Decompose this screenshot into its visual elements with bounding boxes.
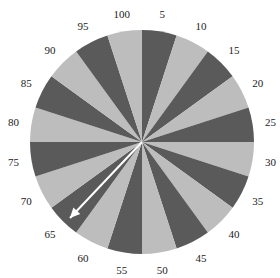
sector-label: 15 xyxy=(228,44,240,56)
sector-label: 100 xyxy=(113,8,130,20)
sector-label: 95 xyxy=(77,20,89,32)
sector-label: 70 xyxy=(21,195,33,207)
spinner-diagram: 5101520253035404550556065707580859095100 xyxy=(0,0,280,278)
sector-label: 55 xyxy=(116,264,128,276)
sector-label: 10 xyxy=(196,20,208,32)
sector-label: 35 xyxy=(252,195,264,207)
sector-label: 80 xyxy=(8,116,20,128)
sector-label: 90 xyxy=(45,44,57,56)
sector-label: 75 xyxy=(8,156,20,168)
sector-label: 45 xyxy=(196,252,208,264)
sector-label: 25 xyxy=(265,116,277,128)
sector-label: 50 xyxy=(157,264,169,276)
sector-label: 60 xyxy=(77,252,89,264)
sector-label: 40 xyxy=(228,228,240,240)
sector-label: 30 xyxy=(265,156,277,168)
sector-label: 65 xyxy=(45,228,57,240)
sector-label: 5 xyxy=(160,8,166,20)
sector-label: 20 xyxy=(252,77,264,89)
sector-label: 85 xyxy=(21,77,33,89)
